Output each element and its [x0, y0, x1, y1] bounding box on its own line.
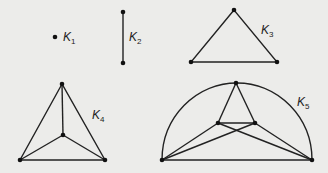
vertex — [234, 81, 239, 86]
vertex — [189, 60, 194, 65]
vertex — [60, 82, 65, 87]
label-k1: K1 — [63, 30, 76, 46]
graph-k1: K1 — [53, 30, 76, 46]
label-k5: K5 — [297, 95, 310, 111]
vertex — [18, 158, 23, 163]
edge — [218, 123, 312, 160]
vertex — [61, 133, 66, 138]
graph-k4: K4 — [18, 82, 108, 163]
label-k3: K3 — [261, 23, 274, 39]
vertex — [53, 35, 58, 40]
vertex — [253, 121, 258, 126]
arc-edge — [162, 83, 312, 160]
graph-k5: K5 — [160, 81, 315, 163]
edge — [236, 83, 255, 123]
vertex — [232, 8, 237, 13]
vertex — [103, 158, 108, 163]
graph-canvas: K1 K2 K3 K4 — [0, 0, 328, 173]
graph-k2: K2 — [121, 10, 142, 66]
vertex — [275, 60, 280, 65]
vertex — [121, 61, 126, 66]
complete-graphs-figure: K1 K2 K3 K4 — [0, 0, 328, 173]
label-k4: K4 — [92, 108, 105, 124]
edge — [62, 84, 63, 135]
vertex — [216, 121, 221, 126]
vertex — [310, 158, 315, 163]
edge — [218, 83, 236, 123]
label-k2: K2 — [129, 30, 142, 46]
vertex — [121, 10, 126, 15]
vertex — [160, 158, 165, 163]
graph-k3: K3 — [189, 8, 280, 65]
